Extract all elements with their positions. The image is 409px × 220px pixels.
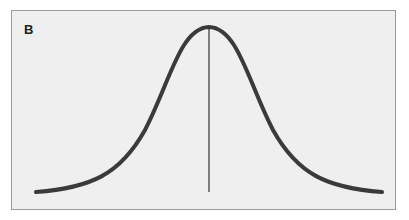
- bell-curve-plot: [0, 0, 409, 220]
